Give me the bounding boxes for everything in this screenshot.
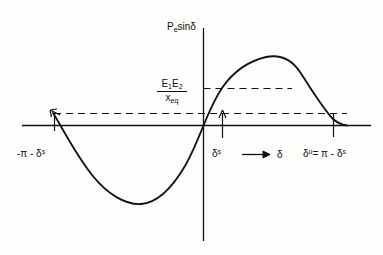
unstable-angle-equality: = π - δ (312, 148, 342, 159)
numerator-e2-subscript: 2 (179, 83, 183, 90)
y-axis-label-p: P (167, 21, 174, 32)
denominator-subscript: eq (171, 97, 179, 104)
stable-angle-label: δs (212, 148, 221, 160)
fraction-denominator: xeq (148, 92, 196, 104)
numerator-e2: E (172, 78, 179, 89)
sine-curve (53, 56, 347, 204)
y-axis-label: Pesinδ (167, 22, 196, 33)
power-angle-figure: Pesinδ E1E2 xeq -π - δs δs δ δu= π - δs (0, 0, 383, 255)
amplitude-fraction-label: E1E2 xeq (148, 79, 196, 104)
plot-canvas (0, 0, 383, 255)
stable-angle-superscript: s (218, 148, 222, 155)
left-root-label: -π - δs (17, 148, 45, 160)
unstable-angle-equality-superscript: s (342, 148, 346, 155)
left-root-text: -π - δ (17, 148, 42, 159)
fraction-numerator: E1E2 (148, 79, 196, 91)
y-axis-label-sin: sinδ (178, 21, 196, 32)
x-axis-variable-text: δ (277, 149, 283, 160)
x-axis-variable-label: δ (277, 150, 283, 161)
delta-direction-arrowhead (263, 151, 270, 158)
left-root-superscript: s (42, 148, 46, 155)
unstable-angle-label: δu= π - δs (303, 148, 346, 160)
